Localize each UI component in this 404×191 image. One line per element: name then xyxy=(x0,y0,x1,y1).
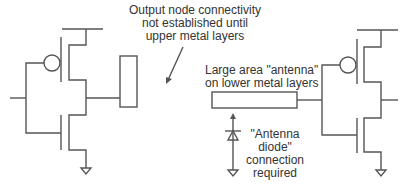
channel-wire-right xyxy=(364,30,381,170)
diode-note-line-4: required xyxy=(240,167,310,180)
diode-arrow-icon xyxy=(230,113,236,119)
antenna-rect xyxy=(212,92,297,108)
output-note: Output node connectivity not established… xyxy=(120,4,270,43)
ground-diode-icon xyxy=(228,170,238,176)
gate-wire-right xyxy=(322,65,357,135)
antenna-diode xyxy=(225,113,241,176)
gate-wire-left xyxy=(26,63,61,133)
arrowhead-icon xyxy=(166,77,172,84)
antenna-note-line-2: on lower metal layers xyxy=(205,77,315,90)
output-metal-rect xyxy=(120,56,137,107)
ground-right-icon xyxy=(376,170,386,176)
right-inverter xyxy=(322,30,398,176)
output-note-arrow xyxy=(168,47,183,80)
pmos-bubble-right-icon xyxy=(340,57,356,73)
pmos-bubble-left-icon xyxy=(44,55,60,71)
channel-wire-left xyxy=(69,29,86,168)
output-note-line-3: upper metal layers xyxy=(120,30,270,43)
antenna-note: Large area "antenna" on lower metal laye… xyxy=(205,64,315,90)
left-inverter xyxy=(10,29,137,174)
diode-note: "Antenna diode" connection required xyxy=(240,128,310,180)
ground-left-icon xyxy=(81,168,91,174)
